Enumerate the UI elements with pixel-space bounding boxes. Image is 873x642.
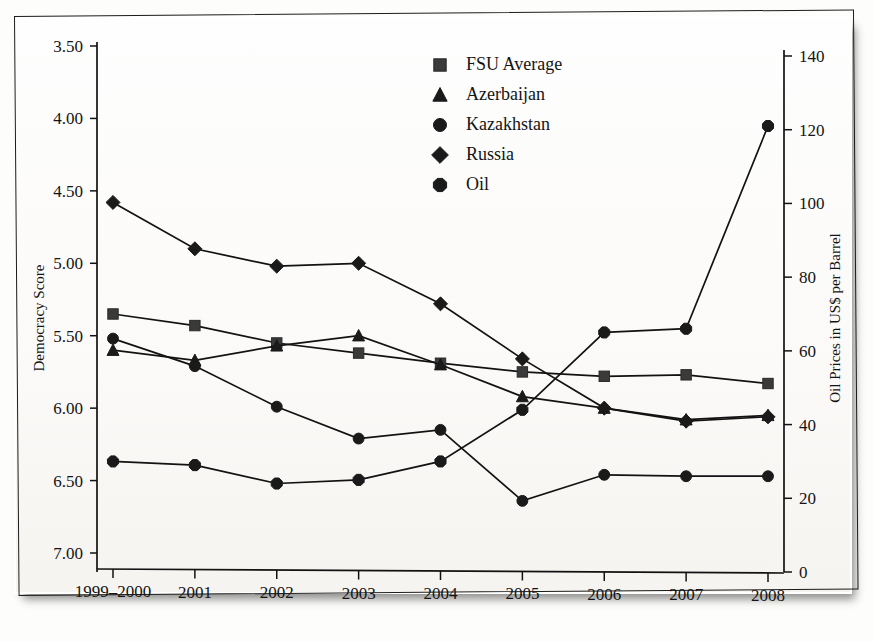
hexagon-marker xyxy=(189,460,200,471)
data-point xyxy=(106,195,120,209)
hexagon-marker xyxy=(599,327,610,338)
data-point xyxy=(271,478,282,489)
data-point xyxy=(352,256,366,270)
x-axis-tick-label: 2003 xyxy=(342,584,376,603)
legend-triangle-marker xyxy=(433,88,447,102)
hexagon-marker xyxy=(681,323,692,334)
data-point xyxy=(763,471,774,482)
legend-square-marker xyxy=(434,59,446,71)
square-marker xyxy=(108,309,118,319)
diamond-marker xyxy=(433,297,447,311)
x-axis-tick-label: 2004 xyxy=(424,584,459,603)
circle-marker xyxy=(599,469,610,480)
data-point xyxy=(108,333,119,344)
triangle-marker xyxy=(516,390,528,401)
square-marker xyxy=(517,367,527,377)
triangle-marker xyxy=(107,344,119,355)
line-chart: 3.504.004.505.005.506.006.507.00 1401201… xyxy=(0,0,873,642)
diamond-marker xyxy=(761,410,775,424)
legend-item-fsu-average: FSU Average xyxy=(434,54,562,74)
circle-marker xyxy=(763,471,774,482)
data-point xyxy=(517,404,528,415)
left-axis-tick-label: 4.50 xyxy=(53,182,83,201)
legend-item-label: Oil xyxy=(466,174,489,194)
legend-item-russia: Russia xyxy=(432,144,514,164)
right-axis-ticks: 140120100806040200 xyxy=(784,47,825,582)
x-axis-tick-label: 2001 xyxy=(178,583,212,602)
data-point xyxy=(435,424,446,435)
circle-marker xyxy=(108,333,119,344)
data-point xyxy=(107,456,118,467)
square-marker xyxy=(353,348,363,358)
square-marker xyxy=(763,378,773,388)
circle-marker xyxy=(681,471,692,482)
x-axis-tick-label: 2005 xyxy=(505,584,539,603)
diamond-marker xyxy=(352,256,366,270)
data-point xyxy=(599,371,609,381)
right-axis-tick-label: 120 xyxy=(799,121,825,140)
data-point xyxy=(107,344,119,355)
diamond-marker xyxy=(188,242,202,256)
data-point xyxy=(761,410,775,424)
data-point xyxy=(517,367,527,377)
legend-item-label: Kazakhstan xyxy=(466,114,550,134)
legend-item-kazakhstan: Kazakhstan xyxy=(433,114,549,134)
square-marker xyxy=(599,371,609,381)
chart-legend: FSU AverageAzerbaijanKazakhstanRussiaOil xyxy=(432,54,563,194)
data-point xyxy=(762,121,773,132)
circle-marker xyxy=(433,118,446,131)
right-axis-tick-label: 140 xyxy=(799,47,825,66)
legend-item-label: Azerbaijan xyxy=(466,84,545,104)
square-marker xyxy=(190,320,200,330)
left-axis-tick-label: 5.50 xyxy=(53,327,83,346)
series-line xyxy=(113,336,768,420)
data-point xyxy=(271,401,282,412)
x-axis-tick-label: 2002 xyxy=(260,583,294,602)
legend-item-label: FSU Average xyxy=(466,54,562,74)
hexagon-marker xyxy=(107,456,118,467)
left-axis-tick-label: 6.00 xyxy=(53,399,83,418)
left-axis-tick-label: 5.00 xyxy=(53,254,83,273)
left-axis-tick-label: 7.00 xyxy=(53,544,83,563)
right-axis-title: Oil Prices in US$ per Barrel xyxy=(827,233,843,403)
hexagon-marker xyxy=(762,121,773,132)
left-axis-ticks: 3.504.004.505.005.506.006.507.00 xyxy=(53,37,97,563)
data-point xyxy=(433,297,447,311)
hexagon-marker xyxy=(517,404,528,415)
scanned-page: 3.504.004.505.005.506.006.507.00 1401201… xyxy=(0,0,873,642)
data-point xyxy=(270,259,284,273)
right-axis-tick-label: 60 xyxy=(799,342,816,361)
legend-item-oil: Oil xyxy=(433,174,489,194)
circle-marker xyxy=(353,433,364,444)
x-axis-tick-label: 2006 xyxy=(587,585,621,604)
data-point xyxy=(435,456,446,467)
circle-marker xyxy=(517,495,528,506)
diamond-marker xyxy=(432,147,449,164)
series-line xyxy=(113,314,768,384)
data-point xyxy=(188,242,202,256)
data-point xyxy=(681,323,692,334)
data-point xyxy=(108,309,118,319)
series-azerbaijan xyxy=(107,329,774,424)
data-point xyxy=(599,469,610,480)
circle-marker xyxy=(271,401,282,412)
left-axis-tick-label: 3.50 xyxy=(53,37,83,56)
left-axis-title: Democracy Score xyxy=(31,264,47,371)
data-point xyxy=(189,460,200,471)
data-point xyxy=(681,370,691,380)
legend-item-label: Russia xyxy=(466,144,514,164)
series-russia xyxy=(106,195,775,428)
data-point xyxy=(353,474,364,485)
x-axis-tick-label: 1999–2000 xyxy=(75,582,152,601)
right-axis-tick-label: 100 xyxy=(799,194,825,213)
right-axis-tick-label: 80 xyxy=(799,268,816,287)
x-axis-tick-label: 2008 xyxy=(751,586,785,605)
data-point xyxy=(189,361,200,372)
diamond-marker xyxy=(106,195,120,209)
data-point xyxy=(681,471,692,482)
data-point xyxy=(763,378,773,388)
hexagon-marker xyxy=(435,456,446,467)
data-point xyxy=(679,414,693,428)
triangle-marker xyxy=(353,329,365,340)
hexagon-marker xyxy=(271,478,282,489)
